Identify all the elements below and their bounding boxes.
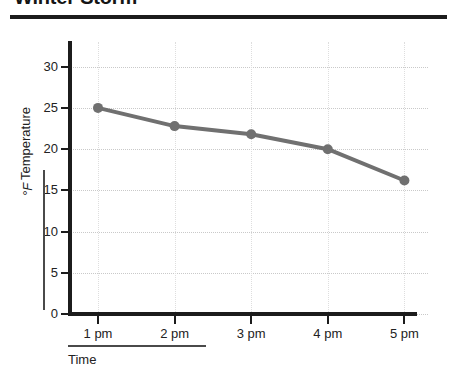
x-axis-tick-label: 3 pm — [237, 326, 266, 341]
data-point-marker — [246, 129, 256, 139]
y-axis-tick-label: 0 — [51, 306, 58, 321]
x-axis-tick — [403, 316, 405, 324]
y-axis-title-divider — [43, 170, 45, 310]
y-axis-tick — [61, 231, 69, 233]
x-axis-title: Time — [68, 352, 96, 367]
x-axis-title-divider — [68, 345, 206, 347]
y-axis-tick — [61, 189, 69, 191]
x-axis-tick — [97, 316, 99, 324]
y-axis-unit: °F — [20, 183, 35, 196]
x-axis-tick-label: 4 pm — [313, 326, 342, 341]
y-axis-tick-label: 20 — [44, 141, 58, 156]
y-axis-line — [68, 41, 72, 316]
x-axis-tick — [327, 316, 329, 324]
data-point-marker — [399, 176, 409, 186]
y-axis-tick — [61, 313, 69, 315]
data-point-marker — [170, 121, 180, 131]
y-axis-title: Temperature — [18, 107, 33, 180]
x-axis-tick — [250, 316, 252, 324]
x-axis-tick-label: 2 pm — [160, 326, 189, 341]
x-axis-line — [68, 312, 417, 316]
title-divider — [10, 15, 447, 19]
y-axis-tick-label: 5 — [51, 265, 58, 280]
x-axis-tick-label: 1 pm — [84, 326, 113, 341]
x-axis-tick-label: 5 pm — [390, 326, 419, 341]
y-axis-tick — [61, 107, 69, 109]
x-axis-tick — [174, 316, 176, 324]
page-title: Winter Storm — [14, 0, 137, 9]
chart-title-block: Winter Storm — [0, 0, 450, 24]
y-axis-tick — [61, 66, 69, 68]
temperature-series — [71, 42, 428, 314]
y-axis-tick-label: 30 — [44, 59, 58, 74]
y-axis-tick-label: 15 — [44, 182, 58, 197]
y-axis-tick-label: 10 — [44, 224, 58, 239]
data-point-marker — [93, 103, 103, 113]
y-axis-tick-label: 25 — [44, 100, 58, 115]
y-axis-tick — [61, 148, 69, 150]
plot-area — [71, 42, 428, 314]
y-axis-tick — [61, 272, 69, 274]
data-point-marker — [323, 144, 333, 154]
series-line — [98, 108, 404, 181]
